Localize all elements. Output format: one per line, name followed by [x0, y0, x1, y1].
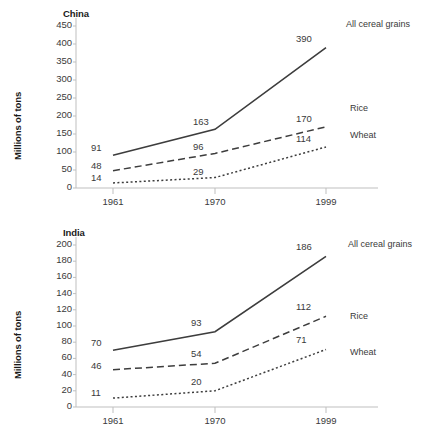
y-axis-tick-label: 400 [28, 37, 72, 48]
y-axis-tick-label: 140 [28, 287, 72, 298]
y-axis-tick-label: 250 [28, 91, 72, 102]
y-axis-tick-label: 50 [28, 163, 72, 174]
y-axis-tick-label: 450 [28, 19, 72, 30]
y-axis-tick-label: 100 [28, 145, 72, 156]
series-label-wheat: Wheat [350, 130, 376, 140]
data-point-label: 91 [91, 142, 102, 153]
y-axis-tick-label: 0 [28, 181, 72, 192]
data-point-label: 14 [91, 172, 102, 183]
data-point-label: 46 [91, 360, 102, 371]
chart-title: India [63, 227, 85, 238]
x-axis-tick-label: 1961 [83, 196, 143, 207]
y-axis-tick-label: 200 [28, 238, 72, 249]
y-axis-tick-label: 60 [28, 351, 72, 362]
y-axis-tick-label: 100 [28, 319, 72, 330]
data-point-label: 48 [91, 160, 102, 171]
series-label-rice: Rice [350, 103, 368, 113]
chart-panel-india: IndiaMillions of tons2001801601401201008… [0, 219, 423, 438]
series-line-all-cereal-grains [113, 48, 326, 156]
series-label-wheat: Wheat [350, 347, 376, 357]
chart-panel-china: ChinaMillions of tons4504003503002502001… [0, 0, 423, 219]
y-axis-tick-label: 180 [28, 254, 72, 265]
data-point-label: 163 [193, 116, 209, 127]
data-point-label: 11 [91, 387, 101, 398]
data-point-label: 114 [296, 133, 311, 144]
series-label-all-cereal-grains: All cereal grains [348, 239, 412, 249]
series-line-wheat [113, 349, 326, 398]
y-axis-tick-label: 160 [28, 270, 72, 281]
y-axis-tick-label: 300 [28, 73, 72, 84]
x-axis-tick-label: 1961 [83, 415, 143, 426]
y-axis-title: Millions of tons [12, 311, 23, 379]
data-point-label: 70 [91, 337, 102, 348]
data-point-label: 93 [191, 317, 202, 328]
data-point-label: 96 [193, 141, 204, 152]
data-point-label: 186 [296, 241, 312, 252]
x-axis-tick-label: 1999 [296, 196, 356, 207]
y-axis-tick-label: 40 [28, 368, 72, 379]
y-axis-tick-label: 120 [28, 303, 72, 314]
y-axis-tick-label: 80 [28, 335, 72, 346]
data-point-label: 390 [296, 33, 312, 44]
y-axis-title: Millions of tons [12, 92, 23, 160]
x-axis-tick-label: 1970 [185, 415, 245, 426]
series-line-rice [113, 127, 326, 171]
chart-title: China [63, 8, 89, 19]
data-point-label: 29 [193, 166, 204, 177]
data-point-label: 112 [296, 301, 311, 312]
data-point-label: 71 [296, 334, 307, 345]
y-axis-tick-label: 20 [28, 384, 72, 395]
y-axis-tick-label: 150 [28, 127, 72, 138]
y-axis-tick-label: 200 [28, 109, 72, 120]
series-line-all-cereal-grains [113, 256, 326, 350]
y-axis-tick-label: 350 [28, 55, 72, 66]
y-axis-tick-label: 0 [28, 400, 72, 411]
x-axis-tick-label: 1999 [296, 415, 356, 426]
series-label-all-cereal-grains: All cereal grains [346, 19, 410, 29]
series-line-wheat [113, 147, 326, 183]
x-axis-tick-label: 1970 [185, 196, 245, 207]
data-point-label: 20 [191, 376, 202, 387]
data-point-label: 54 [191, 348, 202, 359]
series-label-rice: Rice [350, 311, 368, 321]
data-point-label: 170 [296, 113, 312, 124]
